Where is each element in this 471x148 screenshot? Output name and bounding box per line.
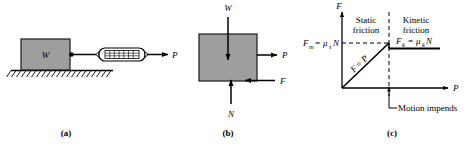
max-static-normal: N — [332, 38, 340, 48]
hatched-ground — [7, 71, 114, 78]
panel-b: W P F N (b) — [199, 3, 288, 138]
max-static-mu: μ — [322, 38, 328, 48]
motion-impends-label: Motion impends — [398, 103, 458, 113]
static-region-label-line2: friction — [353, 25, 380, 35]
applied-force-axis-label: P — [452, 83, 459, 93]
normal-label-b: N — [227, 109, 235, 119]
max-static-equals: = — [315, 38, 320, 48]
kinetic-friction-label: F k = μ k N — [395, 36, 433, 48]
static-region-label-line1: Static — [356, 15, 377, 25]
max-static-mu-sub: s — [329, 43, 332, 50]
kinetic-mu: μ — [415, 36, 421, 46]
friction-figure: W — [0, 0, 471, 148]
friction-label-b: F — [279, 76, 286, 86]
kinetic-region-label-line2: friction — [403, 25, 430, 35]
kinetic-symbol: F — [395, 36, 402, 46]
max-static-friction-label: F m = μ s N — [302, 38, 340, 50]
kinetic-normal: N — [425, 36, 433, 46]
panel-a: W — [7, 39, 179, 138]
applied-force-label-a: P — [171, 50, 178, 60]
caption-b: (b) — [223, 128, 234, 138]
motion-impends-leader — [389, 94, 397, 108]
max-static-symbol-sub: m — [309, 43, 314, 50]
kinetic-mu-sub: k — [422, 41, 425, 48]
weight-label-b: W — [224, 3, 233, 13]
spring-scale — [96, 48, 148, 61]
kinetic-equals: = — [408, 36, 413, 46]
caption-c: (c) — [387, 128, 397, 138]
panel-c: F P Static friction Kinetic friction F m — [302, 1, 459, 138]
kinetic-region-label-line1: Kinetic — [403, 15, 430, 25]
caption-a: (a) — [61, 128, 72, 138]
figure-canvas: W — [0, 0, 471, 148]
max-static-symbol: F — [302, 38, 309, 48]
applied-force-label-b: P — [281, 50, 288, 60]
cord-attach-point — [69, 52, 74, 57]
kinetic-symbol-sub: k — [402, 41, 405, 48]
friction-axis-label: F — [335, 1, 342, 11]
